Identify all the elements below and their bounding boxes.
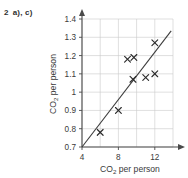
x-axis-title: CO2 per person bbox=[100, 164, 160, 175]
y-tick-label: 1.3 bbox=[65, 33, 77, 42]
y-tick-label: 0.9 bbox=[65, 106, 77, 115]
axis-ticks bbox=[79, 19, 155, 150]
y-tick-label: 1 bbox=[71, 88, 76, 97]
y-tick-label: 1.1 bbox=[65, 70, 77, 79]
trendline bbox=[82, 31, 171, 147]
x-tick-label: 12 bbox=[150, 153, 160, 162]
scatter-plot: 0.70.80.911.11.21.31.44812 CO2 per perso… bbox=[0, 0, 188, 178]
y-tick-label: 0.8 bbox=[65, 125, 77, 134]
data-point bbox=[125, 56, 131, 62]
y-tick-label: 0.7 bbox=[65, 143, 77, 152]
x-tick-label: 4 bbox=[80, 153, 85, 162]
y-axis-title: CO2 per person bbox=[48, 54, 59, 114]
gridlines bbox=[82, 19, 173, 147]
data-point bbox=[143, 75, 149, 81]
scatter-plot-svg: 0.70.80.911.11.21.31.44812 CO2 per perso… bbox=[0, 0, 188, 178]
figure-container: 2a), c) 0.70.80.911.11.21.31.44812 CO2 p… bbox=[0, 0, 188, 178]
x-tick-label: 8 bbox=[116, 153, 121, 162]
y-tick-label: 1.4 bbox=[65, 15, 77, 24]
y-tick-label: 1.2 bbox=[65, 52, 77, 61]
